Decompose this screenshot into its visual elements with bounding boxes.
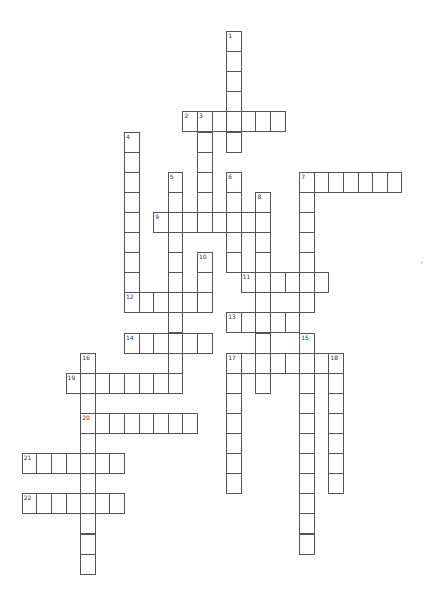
crossword-cell[interactable]: 3 <box>197 111 213 132</box>
crossword-cell[interactable] <box>197 192 213 213</box>
crossword-cell[interactable] <box>299 393 315 414</box>
crossword-cell[interactable] <box>372 172 388 193</box>
crossword-cell[interactable] <box>299 513 315 534</box>
crossword-cell[interactable] <box>109 373 125 394</box>
crossword-cell[interactable] <box>255 232 271 253</box>
crossword-cell[interactable] <box>153 292 169 313</box>
crossword-cell[interactable] <box>255 373 271 394</box>
crossword-cell[interactable] <box>139 292 155 313</box>
crossword-cell[interactable] <box>139 413 155 434</box>
crossword-cell[interactable] <box>95 373 111 394</box>
crossword-cell[interactable] <box>124 232 140 253</box>
crossword-cell[interactable] <box>328 172 344 193</box>
crossword-cell[interactable] <box>168 232 184 253</box>
crossword-cell[interactable] <box>109 493 125 514</box>
crossword-cell[interactable] <box>285 353 301 374</box>
crossword-cell[interactable] <box>358 172 374 193</box>
crossword-cell[interactable]: 8 <box>255 192 271 213</box>
crossword-cell[interactable]: 11 <box>241 272 257 293</box>
crossword-cell[interactable] <box>80 433 96 454</box>
crossword-cell[interactable] <box>314 353 330 374</box>
crossword-cell[interactable] <box>241 111 257 132</box>
crossword-cell[interactable] <box>226 51 242 72</box>
crossword-cell[interactable] <box>299 192 315 213</box>
crossword-cell[interactable] <box>139 373 155 394</box>
crossword-cell[interactable] <box>299 534 315 555</box>
crossword-cell[interactable] <box>168 353 184 374</box>
crossword-cell[interactable] <box>226 252 242 273</box>
crossword-cell[interactable] <box>182 413 198 434</box>
crossword-cell[interactable] <box>80 493 96 514</box>
crossword-cell[interactable] <box>270 111 286 132</box>
crossword-cell[interactable] <box>226 453 242 474</box>
crossword-cell[interactable] <box>343 172 359 193</box>
crossword-cell[interactable] <box>153 373 169 394</box>
crossword-cell[interactable] <box>66 453 82 474</box>
crossword-cell[interactable] <box>36 453 52 474</box>
crossword-cell[interactable] <box>168 312 184 333</box>
crossword-cell[interactable]: 12 <box>124 292 140 313</box>
crossword-cell[interactable] <box>255 353 271 374</box>
crossword-cell[interactable]: 17 <box>226 353 242 374</box>
crossword-cell[interactable]: 10 <box>197 252 213 273</box>
crossword-cell[interactable] <box>241 353 257 374</box>
crossword-cell[interactable] <box>299 373 315 394</box>
crossword-cell[interactable] <box>255 272 271 293</box>
crossword-cell[interactable] <box>285 312 301 333</box>
crossword-cell[interactable]: 1 <box>226 31 242 52</box>
crossword-cell[interactable]: 13 <box>226 312 242 333</box>
crossword-cell[interactable] <box>51 493 67 514</box>
crossword-cell[interactable] <box>299 493 315 514</box>
crossword-cell[interactable] <box>270 312 286 333</box>
crossword-cell[interactable] <box>328 473 344 494</box>
crossword-cell[interactable] <box>124 272 140 293</box>
crossword-cell[interactable] <box>124 413 140 434</box>
crossword-cell[interactable] <box>182 212 198 233</box>
crossword-cell[interactable]: 14 <box>124 333 140 354</box>
crossword-cell[interactable] <box>197 212 213 233</box>
crossword-cell[interactable] <box>80 393 96 414</box>
crossword-cell[interactable] <box>197 172 213 193</box>
crossword-cell[interactable] <box>255 292 271 313</box>
crossword-cell[interactable] <box>109 453 125 474</box>
crossword-cell[interactable] <box>328 433 344 454</box>
crossword-cell[interactable] <box>226 393 242 414</box>
crossword-cell[interactable] <box>139 333 155 354</box>
crossword-cell[interactable] <box>168 413 184 434</box>
crossword-cell[interactable] <box>314 172 330 193</box>
crossword-cell[interactable] <box>255 312 271 333</box>
crossword-cell[interactable] <box>226 111 242 132</box>
crossword-cell[interactable] <box>168 333 184 354</box>
crossword-cell[interactable] <box>270 353 286 374</box>
crossword-cell[interactable] <box>168 252 184 273</box>
crossword-cell[interactable] <box>168 373 184 394</box>
crossword-cell[interactable] <box>241 212 257 233</box>
crossword-cell[interactable] <box>270 272 286 293</box>
crossword-cell[interactable]: 6 <box>226 172 242 193</box>
crossword-cell[interactable] <box>255 252 271 273</box>
crossword-cell[interactable] <box>80 373 96 394</box>
crossword-cell[interactable] <box>168 212 184 233</box>
crossword-cell[interactable] <box>182 333 198 354</box>
crossword-cell[interactable] <box>212 212 228 233</box>
crossword-cell[interactable] <box>255 333 271 354</box>
crossword-cell[interactable]: 16 <box>80 353 96 374</box>
crossword-cell[interactable] <box>80 453 96 474</box>
crossword-cell[interactable] <box>328 453 344 474</box>
crossword-cell[interactable] <box>124 152 140 173</box>
crossword-cell[interactable]: 20 <box>80 413 96 434</box>
crossword-cell[interactable] <box>109 413 125 434</box>
crossword-cell[interactable] <box>95 413 111 434</box>
crossword-cell[interactable] <box>153 333 169 354</box>
crossword-cell[interactable] <box>226 212 242 233</box>
crossword-cell[interactable] <box>51 453 67 474</box>
crossword-cell[interactable] <box>299 272 315 293</box>
crossword-cell[interactable] <box>168 292 184 313</box>
crossword-cell[interactable] <box>226 71 242 92</box>
crossword-cell[interactable] <box>387 172 403 193</box>
crossword-cell[interactable] <box>66 493 82 514</box>
crossword-cell[interactable] <box>124 212 140 233</box>
crossword-cell[interactable] <box>124 192 140 213</box>
crossword-cell[interactable] <box>197 132 213 153</box>
crossword-cell[interactable] <box>95 453 111 474</box>
